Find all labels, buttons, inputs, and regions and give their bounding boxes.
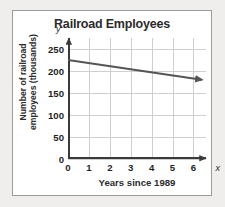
y-tick-label: 100: [48, 110, 64, 121]
y-axis-title: Number of railroad employees (thousands): [18, 23, 48, 141]
y-axis-title-line-1: Number of railroad: [18, 23, 28, 141]
x-axis-variable-label: x: [216, 163, 221, 173]
gridline-horizontal: [68, 159, 206, 160]
x-tick-label: 2: [107, 162, 112, 173]
x-tick-label: 3: [128, 162, 133, 173]
data-series-line: [68, 38, 206, 159]
y-tick-label: 50: [53, 132, 64, 143]
x-tick-label: 1: [86, 162, 91, 173]
y-axis-title-line-2: employees (thousands): [28, 23, 38, 141]
x-tick-label: 6: [191, 162, 196, 173]
figure-card: Railroad Employees Number of railroad em…: [12, 10, 212, 196]
x-tick-label: 5: [170, 162, 175, 173]
x-axis-title: Years since 1989: [68, 177, 206, 188]
y-tick-label: 150: [48, 88, 64, 99]
series-line-railroad-employees: [68, 60, 202, 80]
x-tick-label: 4: [149, 162, 154, 173]
x-tick-label: 0: [65, 162, 70, 173]
y-axis-variable-label: y: [56, 24, 61, 34]
y-tick-label: 200: [48, 66, 64, 77]
plot-area: 050100150200250 0123456 y x: [68, 38, 206, 159]
y-tick-label: 0: [59, 154, 64, 165]
y-tick-label: 250: [48, 44, 64, 55]
